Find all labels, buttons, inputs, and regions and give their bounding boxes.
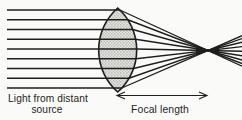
lens-ray-diagram: Light from distant source Focal length (0, 0, 242, 120)
label-light-source-line1: Light from distant (8, 93, 88, 104)
label-light-source-line2: source (31, 104, 62, 115)
label-focal-length: Focal length (131, 104, 189, 115)
lens-focal-length-figure: Light from distant source Focal length (0, 0, 242, 120)
